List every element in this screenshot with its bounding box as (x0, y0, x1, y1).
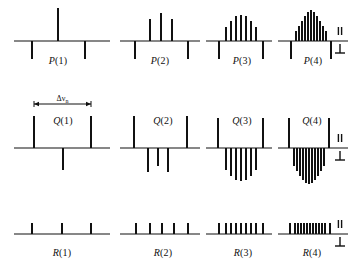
polarization-marker-p (335, 27, 345, 53)
polarization-marker-r (335, 220, 345, 246)
stick-group-p1 (32, 8, 85, 59)
panel-labels-group: P(1)P(2)P(3)P(4)Q(1)Q(2)Q(3)Q(4)R(1)R(2)… (48, 55, 323, 259)
stick-group-q3 (218, 118, 263, 181)
stick-group-r4 (290, 223, 330, 234)
spectrum-figure: Δνn P(1)P(2)P(3)P(4)Q(1)Q(2)Q(3)Q(4)R(1)… (0, 0, 355, 276)
panel-label-p1: P(1) (48, 55, 68, 67)
delta-nu-span-group: Δνn (34, 94, 91, 107)
polarization-legend-group (335, 27, 345, 246)
panel-label-q4: Q(4) (302, 115, 322, 127)
stick-group-p3 (219, 15, 263, 59)
delta-nu-n-label: Δνn (57, 94, 69, 104)
panel-label-r1: R(1) (52, 247, 72, 259)
stick-spectra-svg: Δνn P(1)P(2)P(3)P(4)Q(1)Q(2)Q(3)Q(4)R(1)… (0, 0, 355, 276)
stick-group-q4 (289, 118, 329, 184)
stick-group-r1 (32, 223, 91, 234)
panel-label-p3: P(3) (232, 55, 252, 67)
polarization-marker-q (335, 134, 345, 160)
panel-label-r2: R(2) (153, 247, 173, 259)
panel-label-r3: R(3) (233, 247, 253, 259)
stick-group-p4 (291, 10, 331, 59)
baseline-axes-group (14, 41, 348, 234)
stick-group-r3 (219, 223, 263, 234)
panel-label-r4: R(4) (302, 247, 322, 259)
panel-label-p4: P(4) (303, 55, 323, 67)
spectral-lines-group (32, 8, 331, 234)
span-arrowhead (86, 102, 91, 106)
span-arrowhead (34, 102, 39, 106)
panel-label-q2: Q(2) (153, 115, 173, 127)
stick-group-r2 (136, 223, 188, 234)
panel-label-q1: Q(1) (53, 115, 73, 127)
panel-label-q3: Q(3) (232, 115, 252, 127)
stick-group-p2 (135, 13, 188, 59)
panel-label-p2: P(2) (150, 55, 170, 67)
